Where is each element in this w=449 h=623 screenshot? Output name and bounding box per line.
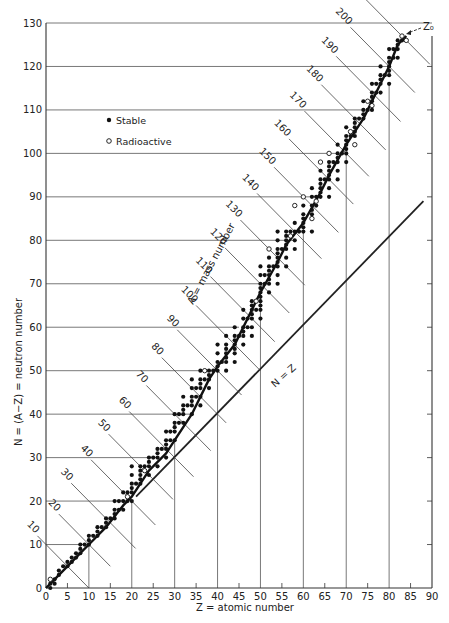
radioactive-nuclide-point [400, 34, 404, 38]
stable-nuclide-point [327, 195, 331, 199]
x-tick-label: 45 [233, 591, 246, 602]
x-tick-label: 5 [64, 591, 70, 602]
stable-nuclide-point [361, 108, 365, 112]
stable-nuclide-point [361, 117, 365, 121]
stable-nuclide-point [87, 538, 91, 542]
x-tick-label: 20 [125, 591, 138, 602]
stable-nuclide-point [254, 308, 258, 312]
stable-nuclide-point [78, 551, 82, 555]
isobar-label: 60 [117, 394, 134, 411]
radioactive-nuclide-point [348, 129, 352, 133]
stable-nuclide-point [70, 555, 74, 559]
y-tick-label: 40 [29, 409, 42, 420]
y-tick-label: 10 [29, 539, 42, 550]
axes: 0510152025303540455055606570758085900102… [23, 18, 438, 603]
stable-nuclide-point [340, 151, 344, 155]
stable-nuclide-point [147, 460, 151, 464]
stable-nuclide-point [353, 117, 357, 121]
stable-nuclide-point [318, 195, 322, 199]
stable-nuclide-point [233, 338, 237, 342]
stable-nuclide-point [151, 456, 155, 460]
stable-nuclide-point [155, 447, 159, 451]
radioactive-nuclide-point [202, 368, 206, 372]
stable-nuclide-point [391, 47, 395, 51]
stable-nuclide-point [245, 325, 249, 329]
stable-nuclide-point [113, 508, 117, 512]
stable-nuclide-point [95, 525, 99, 529]
stable-nuclide-point [366, 108, 370, 112]
stable-nuclide-point [83, 542, 87, 546]
stable-nuclide-point [74, 551, 78, 555]
stable-nuclide-point [215, 364, 219, 368]
stable-nuclide-point [215, 343, 219, 347]
stable-nuclide-point [276, 260, 280, 264]
stable-nuclide-point [344, 134, 348, 138]
x-tick-label: 30 [168, 591, 181, 602]
radioactive-nuclide-point [142, 468, 146, 472]
stable-nuclide-point [301, 221, 305, 225]
stable-nuclide-point [284, 256, 288, 260]
stable-nuclide-point [284, 230, 288, 234]
stable-nuclide-point [353, 134, 357, 138]
stable-nuclide-point [181, 408, 185, 412]
isobar-label: 150 [257, 145, 278, 166]
x-tick-label: 75 [361, 591, 374, 602]
x-tick-label: 25 [147, 591, 160, 602]
y-tick-label: 80 [29, 235, 42, 246]
stable-nuclide-point [91, 534, 95, 538]
stable-nuclide-point [138, 469, 142, 473]
stable-nuclide-point [233, 343, 237, 347]
stable-nuclide-point [147, 473, 151, 477]
stable-nuclide-point [276, 273, 280, 277]
stable-nuclide-point [130, 473, 134, 477]
legend: Stable Radioactive [107, 115, 172, 147]
stable-nuclide-point [190, 377, 194, 381]
stable-nuclide-point [387, 82, 391, 86]
stable-nuclide-point [284, 264, 288, 268]
stable-nuclide-point [267, 282, 271, 286]
stable-nuclide-point [181, 403, 185, 407]
z0-label: Z₀ [423, 21, 434, 32]
isobar-label: 200 [334, 5, 355, 26]
stable-nuclide-point [374, 90, 378, 94]
y-tick-label: 30 [29, 452, 42, 463]
stable-nuclide-point [78, 542, 82, 546]
stable-nuclide-point [198, 386, 202, 390]
stable-nuclide-point [271, 264, 275, 268]
stable-nuclide-point [258, 295, 262, 299]
stable-nuclide-point [185, 403, 189, 407]
stable-nuclide-point [147, 456, 151, 460]
stable-nuclide-point [276, 282, 280, 286]
y-tick-label: 130 [23, 18, 42, 29]
stable-nuclide-point [224, 334, 228, 338]
stable-nuclide-point [173, 412, 177, 416]
stable-nuclide-point [198, 382, 202, 386]
radioactive-nuclide-point [125, 495, 129, 499]
stable-nuclide-point [267, 290, 271, 294]
stable-nuclide-point [250, 334, 254, 338]
stable-nuclide-point [301, 230, 305, 234]
stable-nuclide-point [130, 499, 134, 503]
stable-nuclide-point [387, 56, 391, 60]
y-tick-label: 70 [29, 278, 42, 289]
stable-marker-icon [107, 118, 111, 122]
stable-nuclide-point [378, 77, 382, 81]
radioactive-nuclide-point [314, 199, 318, 203]
stable-nuclide-point [61, 564, 65, 568]
stable-nuclide-point [130, 490, 134, 494]
stable-nuclide-point [344, 138, 348, 142]
isobar-lines: 1020304050607080901001101201301401501601… [25, 0, 430, 588]
stable-nuclide-point [276, 230, 280, 234]
stable-nuclide-point [190, 412, 194, 416]
isobar-label: 140 [240, 172, 261, 193]
stable-nuclide-point [336, 169, 340, 173]
stable-nuclide-point [284, 238, 288, 242]
stable-nuclide-point [87, 542, 91, 546]
stable-nuclide-point [104, 521, 108, 525]
stable-nuclide-point [125, 499, 129, 503]
x-tick-label: 85 [404, 591, 417, 602]
y-tick-label: 20 [29, 496, 42, 507]
stable-nuclide-point [224, 351, 228, 355]
stable-nuclide-point [396, 43, 400, 47]
stable-nuclide-point [181, 421, 185, 425]
